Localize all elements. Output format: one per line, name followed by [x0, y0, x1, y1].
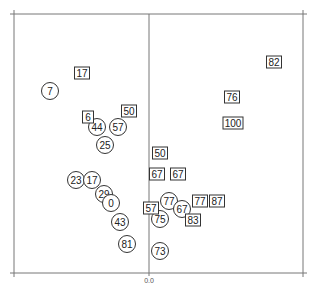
square-marker: 17 [75, 67, 90, 79]
marker-label: 57 [112, 122, 124, 133]
square-marker: 77 [193, 195, 208, 207]
square-marker: 100 [223, 117, 243, 129]
marker-label: 83 [187, 215, 199, 226]
circle-marker: 0 [103, 195, 120, 212]
marker-label: 50 [123, 106, 135, 117]
marker-label: 6 [85, 112, 91, 123]
circle-marker: 25 [97, 137, 114, 154]
square-marker: 50 [122, 105, 137, 117]
marker-label: 50 [154, 148, 166, 159]
circle-marker: 17 [84, 172, 101, 189]
marker-label: 67 [172, 169, 184, 180]
marker-label: 0 [108, 198, 114, 209]
marker-label: 67 [176, 204, 188, 215]
square-marker: 67 [171, 168, 186, 180]
plot-markers: 7445725231729043817767757317650506767578… [42, 56, 282, 260]
circle-marker: 57 [110, 119, 127, 136]
marker-label: 7 [47, 86, 53, 97]
square-marker: 50 [153, 147, 168, 159]
marker-label: 75 [154, 214, 166, 225]
marker-label: 67 [151, 169, 163, 180]
circle-marker: 7 [42, 83, 59, 100]
plot-frame [10, 10, 307, 277]
marker-label: 100 [225, 118, 242, 129]
marker-label: 25 [99, 140, 111, 151]
square-marker: 83 [186, 214, 201, 226]
square-marker: 76 [225, 91, 240, 103]
x-tick-label-zero: 0.0 [144, 277, 154, 284]
marker-label: 87 [211, 196, 223, 207]
marker-label: 76 [226, 92, 238, 103]
marker-label: 57 [145, 203, 157, 214]
circle-marker: 81 [119, 236, 136, 253]
circle-marker: 73 [152, 243, 169, 260]
square-marker: 6 [83, 111, 94, 123]
square-marker: 57 [144, 202, 159, 214]
circle-marker: 23 [68, 172, 85, 189]
circle-marker: 43 [112, 214, 129, 231]
square-marker: 67 [150, 168, 165, 180]
marker-label: 81 [121, 239, 133, 250]
marker-label: 17 [86, 175, 98, 186]
marker-label: 23 [70, 175, 82, 186]
marker-label: 77 [194, 196, 206, 207]
square-marker: 82 [267, 56, 282, 68]
marker-label: 82 [268, 57, 280, 68]
marker-label: 17 [76, 68, 88, 79]
square-marker: 87 [210, 195, 225, 207]
marker-label: 73 [154, 246, 166, 257]
scatter-plot: 7445725231729043817767757317650506767578… [0, 0, 319, 292]
marker-label: 43 [114, 217, 126, 228]
marker-label: 77 [163, 196, 175, 207]
